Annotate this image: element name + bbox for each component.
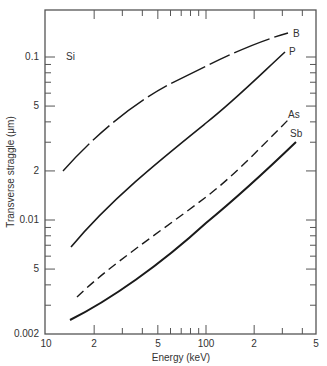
x-axis-title: Energy (keV) <box>152 352 210 363</box>
substrate-label: Si <box>66 51 75 62</box>
series-label-p: P <box>289 46 296 57</box>
series-label-sb: Sb <box>290 128 303 139</box>
y-tick-label: 0.1 <box>25 51 39 62</box>
y-tick-label: 0.002 <box>14 328 39 339</box>
y-tick-label: 0.01 <box>20 214 40 225</box>
plot-frame <box>45 10 316 334</box>
y-tick-label: 2 <box>33 165 39 176</box>
y-tick-label: 5 <box>33 263 39 274</box>
x-tick-label: 2 <box>91 338 97 349</box>
curve-sb <box>70 142 296 320</box>
y-tick-label: 5 <box>33 100 39 111</box>
curve-as <box>77 120 288 297</box>
x-tick-label: 2 <box>251 338 257 349</box>
x-tick-label: 5 <box>313 338 319 349</box>
x-tick-label: 10 <box>40 338 52 349</box>
curve-b <box>63 33 288 171</box>
x-tick-labels: 10 2 5 100 2 5 <box>40 338 319 349</box>
line-chart: 0.002 5 0.01 2 5 0.1 10 2 5 100 2 5 Ener… <box>0 0 327 366</box>
x-tick-label: 100 <box>198 338 215 349</box>
series-label-b: B <box>293 28 300 39</box>
y-axis-title: Transverse straggle (μm) <box>5 116 16 228</box>
axis-ticks <box>45 10 316 334</box>
curves <box>63 33 296 320</box>
x-tick-label: 5 <box>155 338 161 349</box>
series-label-as: As <box>288 109 300 120</box>
y-tick-labels: 0.002 5 0.01 2 5 0.1 <box>14 51 39 339</box>
